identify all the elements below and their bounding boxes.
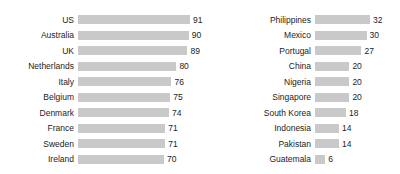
bar-track: 14: [315, 139, 400, 149]
bar-track: 30: [315, 30, 400, 40]
bar-value-label: 6: [325, 154, 333, 164]
bar-track: 76: [78, 77, 200, 87]
bar-row: Indonesia14: [200, 121, 400, 137]
bar-row: France71: [0, 121, 200, 137]
category-label: Ireland: [0, 154, 78, 164]
bar-row: Guatemala6: [200, 152, 400, 168]
bar: [315, 46, 361, 55]
bar-value-label: 71: [165, 139, 177, 149]
bar-track: 70: [78, 154, 200, 164]
bar-value-label: 75: [170, 92, 182, 102]
bar-track: 89: [78, 46, 200, 56]
category-label: Guatemala: [200, 154, 315, 164]
bar-row: Portugal27: [200, 43, 400, 59]
bar-row: Pakistan14: [200, 136, 400, 152]
bar-track: 74: [78, 108, 200, 118]
bar: [78, 93, 170, 102]
bar: [78, 46, 187, 55]
category-label: Netherlands: [0, 61, 78, 71]
bar-value-label: 18: [346, 108, 358, 118]
category-label: Philippines: [200, 15, 315, 25]
bar-row: UK89: [0, 43, 200, 59]
bar-value-label: 14: [339, 139, 351, 149]
bar-value-label: 14: [339, 123, 351, 133]
bar: [315, 93, 349, 102]
chart-panel-left: US91Australia90UK89Netherlands80Italy76B…: [0, 12, 200, 174]
bar-row: Sweden71: [0, 136, 200, 152]
bar-value-label: 20: [349, 92, 361, 102]
bar-row: US91: [0, 12, 200, 28]
category-label: Singapore: [200, 92, 315, 102]
chart-figure: US91Australia90UK89Netherlands80Italy76B…: [0, 0, 400, 174]
bar: [78, 15, 190, 24]
bar: [78, 108, 169, 117]
bar-value-label: 20: [349, 61, 361, 71]
bar-row: China20: [200, 59, 400, 75]
category-label: China: [200, 61, 315, 71]
bar-rows-left: US91Australia90UK89Netherlands80Italy76B…: [0, 12, 200, 167]
bar-row: Denmark74: [0, 105, 200, 121]
bar-track: 91: [78, 15, 200, 25]
bar-track: 71: [78, 139, 200, 149]
bar-track: 6: [315, 154, 400, 164]
category-label: Italy: [0, 77, 78, 87]
bar-track: 90: [78, 30, 200, 40]
bar-row: Belgium75: [0, 90, 200, 106]
bar-value-label: 70: [164, 154, 176, 164]
category-label: US: [0, 15, 78, 25]
category-label: UK: [0, 46, 78, 56]
category-label: Nigeria: [200, 77, 315, 87]
bar-row: Mexico30: [200, 28, 400, 44]
bar-row: Australia90: [0, 28, 200, 44]
bar-track: 71: [78, 123, 200, 133]
bar: [315, 77, 349, 86]
bar: [78, 124, 165, 133]
bar-track: 80: [78, 61, 200, 71]
category-label: Denmark: [0, 108, 78, 118]
bar-row: Philippines32: [200, 12, 400, 28]
bar: [315, 124, 339, 133]
bar: [315, 155, 325, 164]
bar-track: 20: [315, 92, 400, 102]
bar-row: Nigeria20: [200, 74, 400, 90]
category-label: Mexico: [200, 30, 315, 40]
category-label: Indonesia: [200, 123, 315, 133]
bar-track: 32: [315, 15, 400, 25]
bar-track: 14: [315, 123, 400, 133]
bar-value-label: 80: [176, 61, 188, 71]
bar-row: South Korea18: [200, 105, 400, 121]
category-label: Pakistan: [200, 139, 315, 149]
category-label: Australia: [0, 30, 78, 40]
bar: [315, 62, 349, 71]
bar-value-label: 76: [171, 77, 183, 87]
bar-value-label: 89: [187, 46, 199, 56]
category-label: South Korea: [200, 108, 315, 118]
bar: [315, 108, 346, 117]
bar-value-label: 27: [361, 46, 373, 56]
bar: [315, 31, 367, 40]
category-label: France: [0, 123, 78, 133]
bar-track: 20: [315, 77, 400, 87]
category-label: Belgium: [0, 92, 78, 102]
category-label: Sweden: [0, 139, 78, 149]
bar: [78, 155, 164, 164]
category-label: Portugal: [200, 46, 315, 56]
bar: [78, 77, 171, 86]
bar-track: 75: [78, 92, 200, 102]
bar-row: Singapore20: [200, 90, 400, 106]
bar-value-label: 74: [169, 108, 181, 118]
bar: [315, 15, 370, 24]
bar-row: Ireland70: [0, 152, 200, 168]
bar-row: Netherlands80: [0, 59, 200, 75]
bar: [78, 139, 165, 148]
bar: [315, 139, 339, 148]
bar: [78, 31, 189, 40]
bar: [78, 62, 176, 71]
bar-track: 27: [315, 46, 400, 56]
bar-row: Italy76: [0, 74, 200, 90]
bar-track: 20: [315, 61, 400, 71]
bar-value-label: 30: [367, 30, 379, 40]
bar-track: 18: [315, 108, 400, 118]
bar-value-label: 71: [165, 123, 177, 133]
bar-value-label: 20: [349, 77, 361, 87]
